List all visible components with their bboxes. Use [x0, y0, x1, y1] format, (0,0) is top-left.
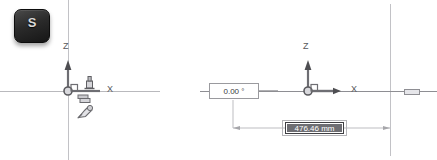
- drag-cursor-icon[interactable]: [78, 99, 93, 119]
- distance-input-field[interactable]: 476.46 mm: [285, 122, 344, 134]
- dimension-arrow-right: [383, 126, 390, 130]
- dimension-arrow-left: [233, 126, 240, 130]
- left-axis-system: [0, 0, 200, 160]
- z-axis-arrowhead[interactable]: [305, 60, 312, 70]
- drag-handle[interactable]: [404, 89, 420, 95]
- left-z-axis-label: Z: [63, 42, 69, 51]
- angle-input-field[interactable]: 0.00 °: [209, 83, 259, 99]
- right-z-axis-label: Z: [303, 42, 309, 51]
- right-axis-system: [200, 0, 437, 160]
- axis-grip-icon[interactable]: [78, 95, 88, 99]
- screenshot-stage: S: [0, 0, 437, 160]
- right-x-axis-label: X: [351, 85, 357, 94]
- left-x-axis-label: X: [107, 85, 113, 94]
- right-panel: Z X 0.00 ° 476.46 mm: [200, 0, 437, 160]
- left-panel: S: [0, 0, 200, 160]
- z-axis-arrowhead[interactable]: [65, 60, 72, 70]
- x-axis-arrowhead[interactable]: [333, 88, 341, 94]
- snap-handle-icon[interactable]: [85, 77, 95, 89]
